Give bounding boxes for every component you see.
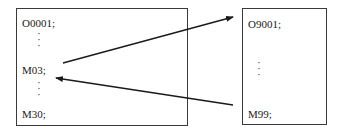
return-arrow [56,78,233,105]
call-arrows [0,0,342,135]
call-arrow [63,17,233,63]
